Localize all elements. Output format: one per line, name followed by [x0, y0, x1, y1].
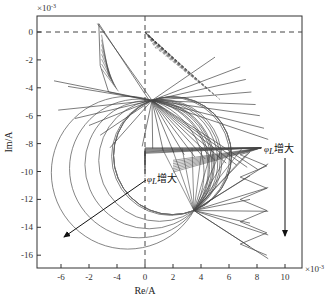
y-tick-label: -14 [21, 222, 33, 232]
y-tick-label: -6 [26, 111, 34, 121]
y-tick-label: -4 [26, 83, 34, 93]
y-scale-label: ×10-3 [37, 3, 56, 13]
y-tick-label: -12 [21, 194, 33, 204]
phi-label-right: φL增大 [264, 142, 294, 156]
x-tick-label: 10 [281, 272, 291, 282]
x-tick-label: 0 [143, 272, 148, 282]
y-tick-label: -10 [21, 167, 33, 177]
x-tick-label: -6 [57, 272, 65, 282]
x-tick-label: 4 [199, 272, 204, 282]
y-axis-title: Im/A [3, 131, 14, 153]
ray-family [54, 24, 268, 259]
x-axis-ticks: -6-2-40246810 [57, 264, 290, 282]
x-tick-label: 6 [227, 272, 232, 282]
x-tick-label: 8 [255, 272, 260, 282]
y-tick-label: -16 [21, 250, 33, 260]
phi-increase-arrow-diag [64, 180, 146, 237]
chart: φL增大 φL增大 -6-2-40246810 0-2-4-6-8-10-12-… [0, 0, 330, 304]
x-axis-title: Re/A [134, 285, 156, 296]
x-tick-label: 2 [171, 272, 176, 282]
x-tick-label: -2 [85, 272, 93, 282]
x-scale-label: ×10-3 [305, 264, 324, 274]
curve-family [51, 96, 231, 249]
y-axis-ticks: 0-2-4-6-8-10-12-14-16 [21, 27, 41, 260]
y-tick-label: -2 [26, 55, 34, 65]
y-tick-label: -8 [26, 139, 34, 149]
y-tick-label: 0 [29, 27, 34, 37]
x-tick-label: -4 [113, 272, 121, 282]
phi-label-center: φL增大 [147, 172, 177, 186]
